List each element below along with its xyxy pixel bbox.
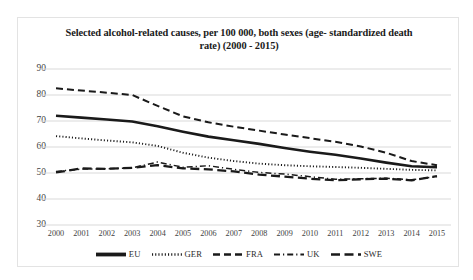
legend-label: SWE [364,249,382,259]
legend-label: EU [129,249,141,259]
x-tick-label: 2011 [321,229,349,238]
x-tick-label: 2005 [169,229,197,238]
data-series-group [56,88,437,180]
legend-item-ger[interactable]: GER [152,249,203,259]
x-tick-label: 2015 [423,229,451,238]
x-tick-label: 2012 [347,229,375,238]
x-tick-label: 2013 [372,229,400,238]
chart-title: Selected alcohol-related causes, per 100… [58,26,420,52]
series-line-fra [56,88,437,165]
x-tick-label: 2004 [144,229,172,238]
legend-item-eu[interactable]: EU [96,249,141,259]
legend-swatch-uk-icon [274,250,304,259]
x-tick-label: 2001 [67,229,95,238]
x-tick-label: 2009 [271,229,299,238]
series-line-uk [56,162,437,180]
x-tick-label: 2002 [93,229,121,238]
x-tick-label: 2010 [296,229,324,238]
legend-swatch-ger-icon [152,250,182,259]
legend-item-swe[interactable]: SWE [331,249,382,259]
x-tick-label: 2014 [398,229,426,238]
chart-legend: EUGERFRAUKSWE [18,249,460,259]
x-tick-label: 2007 [220,229,248,238]
x-tick-label: 2003 [118,229,146,238]
x-tick-label: 2008 [245,229,273,238]
chart-title-line-1: Selected alcohol-related causes, per 100… [65,27,326,38]
legend-label: GER [185,249,203,259]
plot-area [56,69,437,225]
legend-item-uk[interactable]: UK [274,249,320,259]
x-tick-label: 2000 [42,229,70,238]
x-tick-label: 2006 [194,229,222,238]
legend-label: UK [307,249,320,259]
series-canvas [56,69,437,225]
legend-swatch-fra-icon [213,250,243,259]
series-line-eu [56,116,437,167]
legend-label: FRA [246,249,263,259]
chart-frame: Selected alcohol-related causes, per 100… [17,17,459,267]
legend-swatch-swe-icon [331,250,361,259]
legend-swatch-eu-icon [96,250,126,259]
legend-item-fra[interactable]: FRA [213,249,263,259]
